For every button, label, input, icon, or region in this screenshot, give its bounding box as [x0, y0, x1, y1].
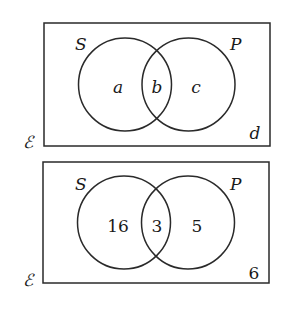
region-p-only-count: 5: [192, 216, 203, 236]
set-p-label: P: [229, 34, 242, 54]
universal-set-label: ℰ: [23, 270, 35, 290]
venn-diagram-symbolic: ℰ S P a b c d: [23, 23, 270, 152]
region-intersection-count: 3: [152, 216, 163, 236]
region-intersection-label: b: [152, 77, 163, 97]
set-s-label: S: [75, 34, 87, 54]
universal-set-label: ℰ: [23, 132, 35, 152]
region-outside-label: d: [250, 123, 261, 143]
venn-diagram-numeric: ℰ S P 16 3 5 6: [23, 162, 269, 290]
set-p-label: P: [229, 174, 242, 194]
venn-diagrams-canvas: ℰ S P a b c d ℰ S P 16 3 5 6: [0, 0, 287, 318]
region-s-only-label: a: [113, 77, 123, 97]
region-outside-count: 6: [249, 263, 260, 283]
set-s-label: S: [75, 174, 87, 194]
region-p-only-label: c: [191, 77, 201, 97]
region-s-only-count: 16: [107, 216, 129, 236]
